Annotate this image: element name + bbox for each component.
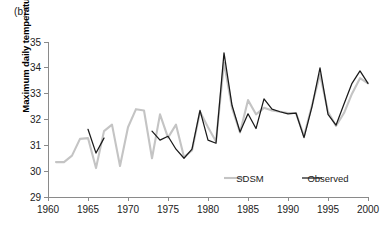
y-tick-label: 29 — [30, 192, 42, 203]
series-line-observed — [88, 53, 368, 158]
x-tick-label: 1965 — [77, 204, 100, 215]
y-tick-label: 30 — [30, 166, 42, 177]
series-line-observed-segment — [152, 53, 368, 158]
x-tick-label: 1980 — [197, 204, 220, 215]
x-axis-tick-labels: 196019651970197519801985199019952000 — [37, 204, 380, 215]
y-tick-label: 34 — [30, 62, 42, 73]
y-tick-label: 33 — [30, 88, 42, 99]
chart-legend: SDSMObserved — [224, 173, 349, 184]
x-tick-label: 1975 — [157, 204, 180, 215]
y-tick-label: 32 — [30, 114, 42, 125]
x-tick-label: 1985 — [237, 204, 260, 215]
x-tick-label: 1995 — [317, 204, 340, 215]
x-tick-label: 1970 — [117, 204, 140, 215]
y-axis-tick-labels: 29303132333435 — [30, 37, 42, 203]
x-tick-label: 1960 — [37, 204, 60, 215]
y-tick-label: 31 — [30, 140, 42, 151]
line-chart: 29303132333435 1960196519701975198019851… — [0, 0, 389, 226]
x-tick-label: 1990 — [277, 204, 300, 215]
figure-panel-b: (b) Maximum daily temperature (°C) 29303… — [0, 0, 389, 226]
legend-label-sdsm: SDSM — [236, 173, 264, 184]
x-tick-label: 2000 — [357, 204, 380, 215]
legend-label-observed: Observed — [307, 173, 348, 184]
y-tick-label: 35 — [30, 37, 42, 48]
